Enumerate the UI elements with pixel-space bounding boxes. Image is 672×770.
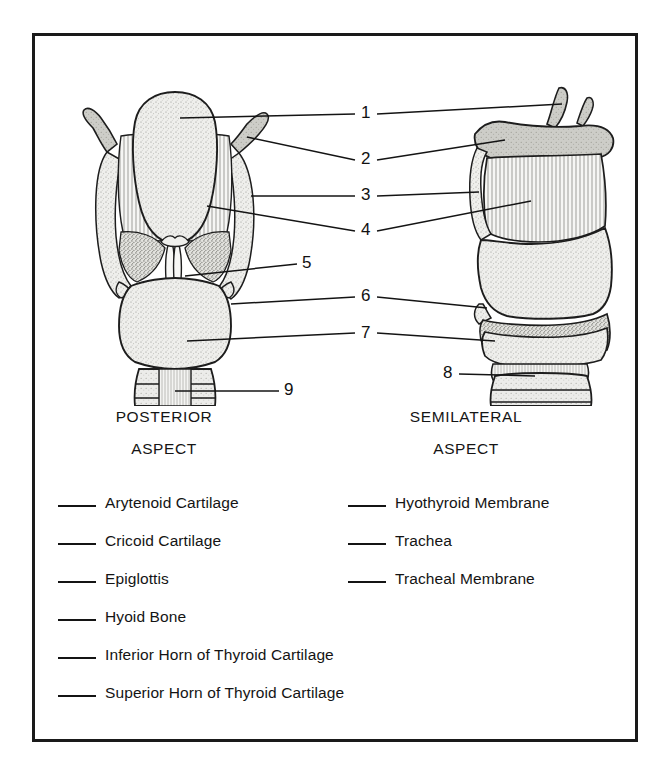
answer-item-arytenoid-cartilage[interactable]: Arytenoid Cartilage xyxy=(58,494,368,532)
worksheet-frame: 1 2 3 4 5 6 7 8 9 POSTERIOR ASPECT SEMIL… xyxy=(32,33,638,742)
caption-semilateral-line1: SEMILATERAL xyxy=(410,408,522,425)
answer-label: Trachea xyxy=(395,532,452,550)
answer-key-right-column: Hyothyroid Membrane Trachea Tracheal Mem… xyxy=(348,494,638,608)
answer-blank-line[interactable] xyxy=(58,581,96,583)
answer-item-epiglottis[interactable]: Epiglottis xyxy=(58,570,368,608)
answer-label: Arytenoid Cartilage xyxy=(105,494,239,512)
callout-number-5: 5 xyxy=(302,254,311,271)
answer-blank-line[interactable] xyxy=(58,695,96,697)
answer-blank-line[interactable] xyxy=(348,505,386,507)
callout-number-6: 6 xyxy=(361,287,370,304)
aspect-captions: POSTERIOR ASPECT SEMILATERAL ASPECT xyxy=(35,408,635,478)
answer-blank-line[interactable] xyxy=(58,543,96,545)
caption-posterior-line1: POSTERIOR xyxy=(116,408,213,425)
caption-semilateral-line2: ASPECT xyxy=(351,440,581,458)
answer-label: Inferior Horn of Thyroid Cartilage xyxy=(105,646,334,664)
callout-number-4: 4 xyxy=(361,221,370,238)
callout-number-1: 1 xyxy=(361,104,370,121)
answer-blank-line[interactable] xyxy=(58,657,96,659)
answer-key-left-column: Arytenoid Cartilage Cricoid Cartilage Ep… xyxy=(58,494,368,722)
answer-label: Cricoid Cartilage xyxy=(105,532,221,550)
caption-posterior-line2: ASPECT xyxy=(49,440,279,458)
answer-item-superior-horn-of-thyroid-cartilage[interactable]: Superior Horn of Thyroid Cartilage xyxy=(58,684,478,722)
answer-item-cricoid-cartilage[interactable]: Cricoid Cartilage xyxy=(58,532,368,570)
callout-number-9: 9 xyxy=(284,381,293,398)
callout-number-7: 7 xyxy=(361,324,370,341)
tracheal-membrane xyxy=(159,369,191,406)
callout-number-2: 2 xyxy=(361,150,370,167)
answer-blank-line[interactable] xyxy=(348,543,386,545)
answer-item-hyothyroid-membrane[interactable]: Hyothyroid Membrane xyxy=(348,494,638,532)
cricoid-cartilage xyxy=(119,278,231,369)
figure-posterior-aspect xyxy=(83,92,268,406)
answer-label: Hyoid Bone xyxy=(105,608,186,626)
caption-semilateral-aspect: SEMILATERAL ASPECT xyxy=(351,408,581,458)
caption-posterior-aspect: POSTERIOR ASPECT xyxy=(49,408,279,458)
answer-blank-line[interactable] xyxy=(348,581,386,583)
larynx-illustration xyxy=(35,36,635,406)
answer-label: Superior Horn of Thyroid Cartilage xyxy=(105,684,344,702)
answer-item-trachea[interactable]: Trachea xyxy=(348,532,638,570)
answer-item-tracheal-membrane[interactable]: Tracheal Membrane xyxy=(348,570,638,608)
answer-item-hyoid-bone[interactable]: Hyoid Bone xyxy=(58,608,368,646)
callout-number-3: 3 xyxy=(361,186,370,203)
arytenoid-cartilage-right xyxy=(174,242,182,280)
larynx-figure-stage: 1 2 3 4 5 6 7 8 9 xyxy=(35,36,635,406)
answer-label: Epiglottis xyxy=(105,570,169,588)
callout-number-8: 8 xyxy=(443,364,452,381)
answer-label: Tracheal Membrane xyxy=(395,570,535,588)
answer-blank-line[interactable] xyxy=(58,505,96,507)
answer-blank-line[interactable] xyxy=(58,619,96,621)
hyothyroid-membrane xyxy=(484,154,606,242)
answer-label: Hyothyroid Membrane xyxy=(395,494,549,512)
answer-item-inferior-horn-of-thyroid-cartilage[interactable]: Inferior Horn of Thyroid Cartilage xyxy=(58,646,478,684)
figure-semilateral-aspect xyxy=(470,88,614,406)
